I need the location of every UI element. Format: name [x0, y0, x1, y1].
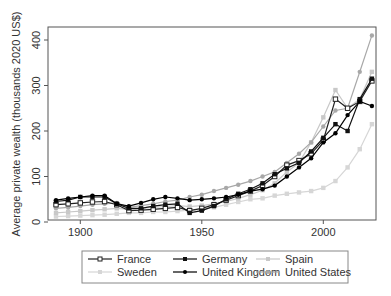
legend-label: France [117, 253, 151, 265]
legend: FranceGermanySpainSwedenUnited KingdomUn… [82, 251, 352, 283]
series-germany [54, 76, 374, 215]
legend-label: Germany [202, 253, 248, 265]
legend-label: United States [285, 266, 352, 278]
x-axis-ticks: 190019502000 [68, 220, 335, 238]
series-lines [54, 33, 374, 218]
y-axis-ticks: 0100200300400 [30, 31, 48, 225]
series-spain [54, 70, 374, 215]
x-tick-label: 2000 [311, 226, 335, 238]
y-tick-label: 200 [30, 122, 42, 140]
legend-label: Spain [285, 253, 313, 265]
y-axis-label: Average private wealth (thousands 2020 U… [10, 12, 22, 237]
y-tick-label: 0 [30, 219, 42, 225]
line-chart: Average private wealth (thousands 2020 U… [0, 0, 391, 296]
y-tick-label: 100 [30, 167, 42, 185]
x-tick-label: 1950 [190, 226, 214, 238]
legend-label: Sweden [117, 266, 157, 278]
series-united-states [54, 33, 374, 210]
x-tick-label: 1900 [68, 226, 92, 238]
y-axis-title: Average private wealth (thousands 2020 U… [10, 12, 22, 237]
y-tick-label: 400 [30, 31, 42, 49]
y-tick-label: 300 [30, 76, 42, 94]
